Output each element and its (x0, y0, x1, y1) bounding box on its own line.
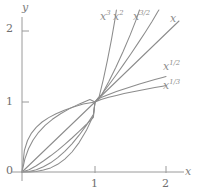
curve-label-x-three-halves: x3/2 (133, 11, 150, 22)
curve-x-half (22, 77, 166, 173)
curve-label-x-half: x1/2 (163, 61, 180, 72)
curve-label-exponent: 3/2 (139, 9, 150, 17)
curve-label-exponent: 1/3 (169, 78, 180, 86)
curve-x-third (22, 86, 166, 172)
x-axis-label: x (185, 166, 191, 177)
curve-label-exponent: 3 (106, 9, 110, 17)
power-functions-figure: y x 0 1 2 1 2 x3 x2 x3/2 x x1/2 x1/3 (0, 0, 197, 194)
curve-label-x-linear: x (170, 13, 176, 24)
x-tick-label-1: 1 (91, 178, 98, 189)
curve-label-x-squared: x2 (113, 11, 124, 22)
curve-x-linear (22, 21, 179, 172)
y-tick-label-0: 0 (6, 165, 13, 176)
curve-label-base: x (170, 12, 176, 25)
curve-label-x-third: x1/3 (163, 80, 180, 91)
curve-group (22, 10, 179, 172)
y-axis-label: y (22, 2, 28, 13)
plot-canvas (0, 0, 197, 194)
curve-label-exponent: 1/2 (169, 59, 180, 67)
curve-label-exponent: 2 (119, 9, 123, 17)
curve-label-x-cubed: x3 (100, 11, 111, 22)
y-tick-label-2: 2 (6, 23, 13, 34)
y-tick-label-1: 1 (6, 96, 13, 107)
curve-x-cubed (22, 10, 116, 172)
x-tick-label-2: 2 (162, 178, 169, 189)
curve-x-squared (22, 10, 140, 172)
